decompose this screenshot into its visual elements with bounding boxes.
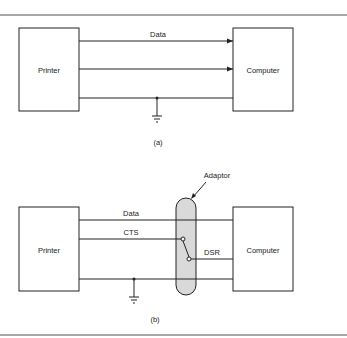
callout-arrow-icon xyxy=(191,182,206,199)
ground-symbol-icon xyxy=(129,278,139,304)
adaptor-label: Adaptor xyxy=(204,171,231,180)
adaptor-capsule xyxy=(176,198,196,295)
computer-label-a: Computer xyxy=(247,66,280,75)
printer-label-a: Printer xyxy=(38,66,61,75)
data-label-a: Data xyxy=(150,30,167,39)
figure-b: Printer Computer Data CTS DSR Adaptor xyxy=(19,171,293,324)
data-label-b: Data xyxy=(123,209,140,218)
figure-a: Printer Computer Data (a) xyxy=(19,28,293,147)
dsr-label: DSR xyxy=(204,248,220,257)
printer-label-b: Printer xyxy=(38,246,61,255)
diagram-canvas: Printer Computer Data (a) Printer Comput… xyxy=(0,0,347,338)
ground-symbol-icon xyxy=(152,97,162,123)
caption-b: (b) xyxy=(150,315,160,324)
computer-label-b: Computer xyxy=(247,246,280,255)
caption-a: (a) xyxy=(153,138,163,147)
cts-label: CTS xyxy=(124,228,139,237)
